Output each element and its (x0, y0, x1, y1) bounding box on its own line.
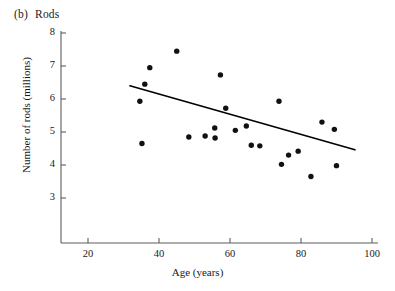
data-point (276, 99, 281, 104)
data-point (186, 134, 191, 139)
x-tick-label: 60 (225, 248, 236, 259)
y-tick-label: 3 (50, 191, 55, 202)
data-point (223, 106, 228, 111)
y-tick-label: 4 (50, 158, 56, 169)
x-tick-label: 20 (83, 248, 94, 259)
data-point (286, 152, 291, 157)
data-point (202, 133, 207, 138)
chart-panel: (b)Rods Number of rods (millions) Age (y… (0, 0, 395, 291)
y-tick-label: 5 (50, 125, 55, 136)
data-point (257, 143, 262, 148)
data-point (308, 174, 313, 179)
data-point (334, 163, 339, 168)
data-point (142, 81, 147, 86)
data-point (137, 99, 142, 104)
data-point (212, 125, 217, 130)
data-point (212, 135, 217, 140)
x-tick-label: 80 (296, 248, 307, 259)
data-point (147, 65, 152, 70)
scatter-plot: 34567820406080100 (0, 0, 395, 291)
data-point (319, 119, 324, 124)
data-point (139, 141, 144, 146)
data-point (244, 123, 249, 128)
data-point (249, 143, 254, 148)
y-tick-label: 7 (50, 59, 55, 70)
y-tick-label: 6 (50, 92, 55, 103)
y-tick-label: 8 (50, 26, 55, 37)
data-point (233, 128, 238, 133)
data-point (332, 127, 337, 132)
x-tick-label: 100 (364, 248, 380, 259)
data-point (218, 72, 223, 77)
regression-line (130, 86, 355, 150)
data-point (174, 48, 179, 53)
data-point (279, 162, 284, 167)
data-point (295, 148, 300, 153)
x-tick-label: 40 (154, 248, 165, 259)
